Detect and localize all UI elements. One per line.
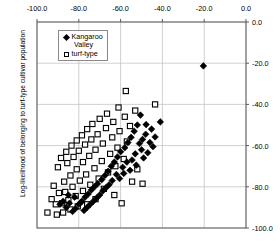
data-point-square — [110, 135, 115, 140]
y-tick-label: 0.0 — [252, 18, 262, 27]
data-point-square — [77, 178, 82, 183]
scatter-chart-figure: Log-likelihood of belonging to turf-type… — [0, 0, 280, 242]
data-point-square — [97, 116, 102, 121]
data-point-square — [58, 155, 63, 160]
data-point-square — [84, 172, 89, 177]
data-point-square — [54, 212, 59, 217]
data-point-square — [56, 190, 61, 195]
data-point-square — [116, 105, 121, 110]
data-point-diamond — [200, 63, 207, 70]
data-point-square — [152, 102, 157, 107]
data-point-diamond — [148, 126, 155, 133]
data-point-square — [74, 167, 79, 172]
data-point-square — [62, 179, 67, 184]
data-point-diamond — [132, 151, 139, 158]
data-point-square — [74, 138, 79, 143]
data-point-square — [123, 88, 128, 93]
data-point-square — [111, 119, 116, 124]
data-point-square — [69, 143, 74, 148]
y-tick-label: -20.0 — [252, 59, 269, 68]
data-point-square — [65, 161, 70, 166]
data-point-square — [61, 210, 66, 215]
data-point-square — [99, 158, 104, 163]
y-tick-label: -60.0 — [252, 141, 269, 150]
filled-diamond-icon — [63, 35, 70, 40]
data-point-square — [51, 183, 56, 188]
data-point-square — [82, 142, 87, 147]
data-point-square — [68, 173, 73, 178]
data-point-square — [117, 129, 122, 134]
data-point-square — [129, 179, 134, 184]
data-point-square — [49, 197, 54, 202]
data-point-square — [100, 141, 105, 146]
data-point-square — [85, 127, 90, 132]
data-point-square — [95, 132, 100, 137]
data-point-square — [89, 137, 94, 142]
data-point-square — [104, 111, 109, 116]
data-point-square — [93, 147, 98, 152]
data-point-square — [87, 153, 92, 158]
x-tick-label: -60.0 — [112, 4, 129, 13]
data-point-square — [80, 188, 85, 193]
data-point-square — [90, 121, 95, 126]
data-point-square — [127, 123, 132, 128]
data-point-square — [71, 154, 76, 159]
data-point-square — [108, 151, 113, 156]
x-tick-label: -40.0 — [154, 4, 171, 13]
y-tick-label: -80.0 — [252, 182, 269, 191]
data-point-square — [79, 133, 84, 138]
y-tick-label: -100.0 — [252, 224, 273, 233]
data-point-square — [119, 201, 124, 206]
x-tick-label: -20.0 — [196, 4, 213, 13]
y-axis-title: Log-likelihood of belonging to turf-type… — [19, 14, 26, 214]
data-point-diamond — [152, 134, 159, 141]
data-point-square — [70, 184, 75, 189]
open-square-icon — [63, 52, 70, 57]
data-point-square — [45, 210, 50, 215]
y-tick-label: -40.0 — [252, 100, 269, 109]
series-turf-type — [45, 88, 158, 217]
data-point-square — [133, 108, 138, 113]
data-point-square — [103, 125, 108, 130]
x-tick-label: 0.0 — [241, 4, 251, 13]
chart-legend: Kangaroo Valley turf-type — [58, 30, 108, 61]
x-tick-label: -100.0 — [27, 4, 48, 13]
data-point-square — [55, 165, 60, 170]
data-point-diamond — [143, 121, 150, 128]
data-point-diamond — [134, 122, 141, 129]
legend-label-turf-type: turf-type — [72, 50, 98, 58]
legend-item-turf-type: turf-type — [63, 50, 103, 58]
data-point-diamond — [120, 170, 127, 177]
x-tick-label: -80.0 — [70, 4, 87, 13]
plot-canvas — [0, 0, 280, 242]
data-point-square — [76, 148, 81, 153]
data-point-diamond — [138, 146, 145, 153]
data-point-square — [64, 149, 69, 154]
data-point-square — [92, 166, 97, 171]
data-point-diamond — [144, 150, 151, 157]
data-point-square — [112, 192, 117, 197]
data-point-square — [80, 159, 85, 164]
data-point-square — [122, 114, 127, 119]
data-point-diamond — [140, 155, 147, 162]
data-point-diamond — [127, 167, 134, 174]
data-point-square — [140, 181, 145, 186]
